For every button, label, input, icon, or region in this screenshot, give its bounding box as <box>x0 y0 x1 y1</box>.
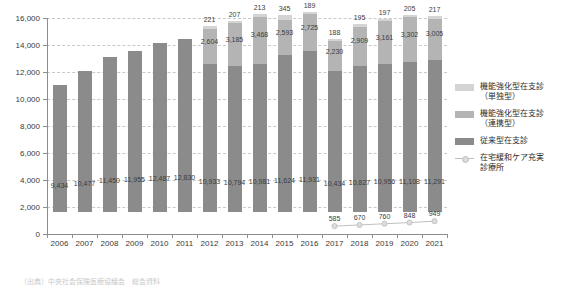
bar-segment-cooperative <box>303 14 317 51</box>
legend-swatch-icon <box>455 84 474 91</box>
legend-item[interactable]: 機能強化型在支診（連携型） <box>455 109 573 129</box>
x-axis-tick-label: 2016 <box>301 239 319 248</box>
line-value-label: 848 <box>404 212 416 219</box>
bar-group[interactable]: 12,830 <box>178 0 192 212</box>
bar-segment-conventional <box>178 39 192 212</box>
bar-group[interactable]: 11,450 <box>103 0 117 212</box>
legend-line-marker-icon <box>455 155 474 162</box>
y-axis-tick <box>43 45 48 46</box>
y-axis-tick <box>43 72 48 73</box>
bar-segment-standalone <box>378 19 392 22</box>
bar-segment-cooperative <box>428 19 442 60</box>
bar-value-label: 10,933 <box>199 178 220 185</box>
bar-value-label: 12,830 <box>174 174 195 181</box>
line-series-point[interactable] <box>432 219 437 224</box>
y-axis-tick-label: 8,000 <box>20 122 40 131</box>
bar-value-label: 2,909 <box>351 37 369 44</box>
x-axis-tick-label: 2013 <box>226 239 244 248</box>
bar-segment-conventional <box>203 64 217 212</box>
bar-value-label: 11,624 <box>274 177 295 184</box>
bar-value-label: 217 <box>429 6 441 13</box>
legend-item-label: 在宅緩和ケア充実診療所 <box>480 153 544 173</box>
x-axis-tick-label: 2007 <box>76 239 94 248</box>
line-series-point[interactable] <box>357 222 362 227</box>
bar-segment-conventional <box>303 51 317 212</box>
bar-group[interactable]: 10,4342,230188 <box>328 0 342 212</box>
bar-value-label: 10,794 <box>224 179 245 186</box>
y-axis-tick <box>43 153 48 154</box>
bar-segment-standalone <box>253 14 267 17</box>
bar-value-label: 345 <box>279 5 291 12</box>
chart-plot-inner: 02,0004,0006,0008,00010,00012,00014,0001… <box>47 18 447 234</box>
bar-group[interactable]: 10,9813,468213 <box>253 0 267 212</box>
x-axis-tick <box>247 234 248 238</box>
x-axis-tick <box>172 234 173 238</box>
line-series-point[interactable] <box>382 221 387 226</box>
bar-group[interactable]: 11,1083,302205 <box>403 0 417 212</box>
legend-label-line: 機能強化型在支診 <box>480 109 544 119</box>
bar-group[interactable]: 11,9312,725189 <box>303 0 317 212</box>
bar-segment-conventional <box>78 71 92 212</box>
bar-group[interactable]: 10,477 <box>78 0 92 212</box>
legend-item-label: 機能強化型在支診（単独型） <box>480 82 544 102</box>
bar-group[interactable]: 11,6242,593345 <box>278 0 292 212</box>
bar-value-label: 10,477 <box>74 180 95 187</box>
bar-group[interactable]: 10,9563,161197 <box>378 0 392 212</box>
line-series-point[interactable] <box>332 224 337 229</box>
legend-label-line: 機能強化型在支診 <box>480 82 544 92</box>
bar-value-label: 221 <box>204 16 216 23</box>
bar-group[interactable]: 12,487 <box>153 0 167 212</box>
y-axis-tick-label: 0 <box>36 230 40 239</box>
bar-value-label: 3,005 <box>426 30 444 37</box>
y-axis-tick-label: 6,000 <box>20 149 40 158</box>
x-axis-tick <box>397 234 398 238</box>
line-series-point[interactable] <box>407 220 412 225</box>
bar-value-label: 205 <box>404 5 416 12</box>
bar-value-label: 188 <box>329 29 341 36</box>
x-axis-tick <box>147 234 148 238</box>
bar-value-label: 9,434 <box>51 182 69 189</box>
y-axis-tick-label: 16,000 <box>16 14 40 23</box>
x-axis-tick <box>272 234 273 238</box>
x-axis-tick <box>72 234 73 238</box>
x-axis-tick <box>47 234 48 238</box>
line-value-label: 585 <box>329 215 341 222</box>
bar-group[interactable]: 10,7943,185207 <box>228 0 242 212</box>
legend-item[interactable]: 機能強化型在支診（単独型） <box>455 82 573 102</box>
line-value-label: 760 <box>379 213 391 220</box>
chart-caption: （出典）中央社会保険医療協議会 総会資料 <box>20 276 160 286</box>
bar-segment-standalone <box>428 16 442 19</box>
x-axis-tick-label: 2017 <box>326 239 344 248</box>
bar-segment-standalone <box>403 15 417 18</box>
bar-value-label: 10,827 <box>349 179 370 186</box>
bar-segment-conventional <box>53 85 67 212</box>
x-axis-tick <box>322 234 323 238</box>
bar-value-label: 10,434 <box>324 180 345 187</box>
x-axis-tick-label: 2009 <box>126 239 144 248</box>
bar-segment-cooperative <box>353 27 367 66</box>
legend-item[interactable]: 在宅緩和ケア充実診療所 <box>455 153 573 173</box>
x-axis-tick-label: 2006 <box>51 239 69 248</box>
x-axis-tick <box>447 234 448 238</box>
legend-item[interactable]: 従来型在支診 <box>455 136 573 146</box>
bar-group[interactable]: 10,9332,604221 <box>203 0 217 212</box>
bar-group[interactable]: 11,955 <box>128 0 142 212</box>
legend-label-line: （単独型） <box>480 92 544 102</box>
bar-segment-conventional <box>128 51 142 212</box>
x-axis-tick <box>422 234 423 238</box>
bar-value-label: 195 <box>354 14 366 21</box>
x-axis-tick-label: 2011 <box>176 239 193 248</box>
line-value-label: 949 <box>429 210 441 217</box>
y-axis-tick <box>43 126 48 127</box>
bar-segment-cooperative <box>378 21 392 64</box>
y-axis-tick-label: 4,000 <box>20 176 40 185</box>
bar-group[interactable]: 10,8272,909195 <box>353 0 367 212</box>
x-axis-tick-label: 2020 <box>401 239 419 248</box>
bar-value-label: 2,593 <box>276 29 294 36</box>
bar-segment-conventional <box>428 60 442 212</box>
bar-value-label: 11,108 <box>399 178 420 185</box>
bar-value-label: 2,725 <box>301 24 319 31</box>
bar-value-label: 2,230 <box>326 48 344 55</box>
bar-group[interactable]: 9,434 <box>53 0 67 212</box>
bar-group[interactable]: 11,2913,005217 <box>428 0 442 212</box>
